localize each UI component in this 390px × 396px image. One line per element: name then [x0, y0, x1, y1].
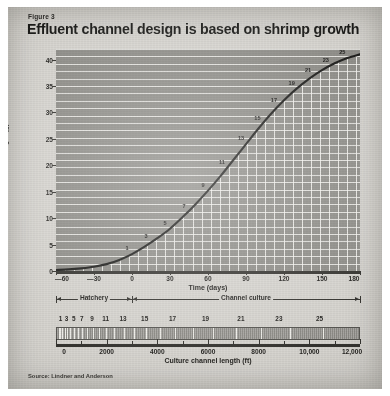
- curve-point-label: 7: [182, 203, 185, 209]
- source-note: Source: Lindner and Anderson: [28, 373, 113, 379]
- x-tick-label: —60: [55, 275, 69, 282]
- phase-arrow-left: [133, 297, 137, 301]
- segment-number: 25: [316, 315, 323, 322]
- channel-length-tick-label: 12,000: [342, 348, 362, 355]
- curve-point-label: 25: [339, 49, 345, 55]
- curve-point-label: 13: [238, 135, 244, 141]
- channel-length-tick-label: 2000: [99, 348, 114, 355]
- phase-end-cap: [360, 296, 361, 303]
- x-axis-title: Time (days): [56, 284, 360, 291]
- segment-number: 13: [120, 315, 127, 322]
- phase-label: Channel culture: [219, 294, 273, 301]
- channel-segment-numbers: 135791113151719212325: [56, 315, 360, 325]
- curve-point-label: 19: [289, 80, 295, 86]
- growth-curve-plot: 135791113151719212325: [56, 49, 360, 271]
- segment-bar-texture: [57, 328, 359, 339]
- x-tick-label: 150: [316, 275, 327, 282]
- x-tick-label: 0: [130, 275, 134, 282]
- segment-number: 17: [169, 315, 176, 322]
- segment-number: 7: [80, 315, 84, 322]
- channel-length-axis-line: [56, 344, 360, 347]
- segment-number: 1: [59, 315, 63, 322]
- x-tick-label: 120: [278, 275, 289, 282]
- channel-length-tick-label: 0: [62, 348, 66, 355]
- channel-length-tick-label: 8000: [251, 348, 266, 355]
- curve-point-label: 23: [323, 57, 329, 63]
- figure-panel: Figure 3 Effluent channel design is base…: [8, 7, 382, 389]
- curve-point-label: 3: [144, 233, 147, 239]
- segment-number: 11: [102, 315, 109, 322]
- curve-point-label: 15: [254, 115, 260, 121]
- x-tick-label: 30: [166, 275, 173, 282]
- segment-number: 15: [141, 315, 148, 322]
- curve-point-label: 11: [219, 159, 225, 165]
- channel-length-axis-title: Culture channel length (ft): [56, 357, 360, 364]
- channel-length-tick-label: 10,000: [299, 348, 319, 355]
- x-tick-label: —30: [87, 275, 101, 282]
- curve-point-label: 21: [305, 67, 311, 73]
- phase-arrow-left: [57, 297, 61, 301]
- figure-title: Effluent channel design is based on shri…: [27, 21, 359, 37]
- curve-point-label: 5: [163, 220, 166, 226]
- segment-number: 3: [65, 315, 69, 322]
- curve-point-label: 1: [125, 245, 128, 251]
- x-tick-label: 180: [348, 275, 359, 282]
- figure-number: Figure 3: [28, 13, 55, 20]
- segment-number: 9: [90, 315, 94, 322]
- phase-arrow-right: [355, 297, 359, 301]
- channel-length-tick-label: 4000: [150, 348, 165, 355]
- phase-annotations: HatcheryChannel culture: [56, 295, 360, 305]
- phase-arrow-right: [127, 297, 131, 301]
- x-tick-label: 90: [242, 275, 249, 282]
- shrimp-growth-curve: [56, 49, 360, 271]
- segment-number: 23: [275, 315, 282, 322]
- x-tick-label: 60: [204, 275, 211, 282]
- phase-label: Hatchery: [78, 294, 110, 301]
- segment-number: 19: [202, 315, 209, 322]
- segment-number: 5: [72, 315, 76, 322]
- curve-point-label: 17: [271, 97, 277, 103]
- channel-length-tick-label: 6000: [201, 348, 216, 355]
- y-axis-tick-labels: 0510152025303540: [32, 49, 53, 271]
- curve-point-label: 9: [201, 182, 204, 188]
- segment-number: 21: [237, 315, 244, 322]
